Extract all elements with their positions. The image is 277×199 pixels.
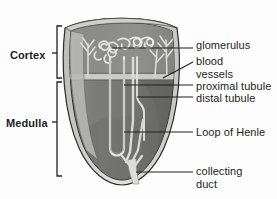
callout-collecting-duct: collecting duct (196, 165, 242, 190)
callout-loop-of-henle: Loop of Henle (196, 126, 265, 139)
callout-glomerulus: glomerulus (196, 39, 250, 52)
region-label-cortex: Cortex (10, 49, 45, 61)
callout-blood-vessels-line1: blood (196, 55, 233, 68)
region-label-medulla: Medulla (6, 117, 48, 129)
callout-collecting-duct-line2: duct (196, 178, 242, 191)
medulla-bracket (52, 82, 62, 176)
callout-collecting-duct-line1: collecting (196, 165, 242, 178)
callout-blood-vessels-line2: vessels (196, 68, 233, 81)
callout-distal-tubule: distal tubule (196, 92, 255, 105)
callout-blood-vessels: blood vessels (196, 55, 233, 80)
kidney-nephron-figure: Cortex Medulla glomerulus blood vessels … (0, 0, 277, 199)
callout-proximal-tubule: proximal tubule (196, 80, 271, 93)
cortex-bracket (52, 26, 62, 78)
